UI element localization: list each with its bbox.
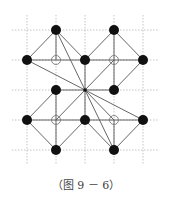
hollow-point (110, 116, 119, 125)
filled-point (109, 85, 119, 95)
hollow-point (52, 116, 61, 125)
filled-point (51, 25, 61, 35)
hollow-point (110, 56, 119, 65)
filled-point (51, 145, 61, 155)
filled-point (109, 25, 119, 35)
center-point (83, 88, 87, 92)
segment (114, 120, 143, 150)
segment (114, 30, 143, 60)
segment (27, 90, 56, 120)
hollow-point (52, 56, 61, 65)
figure-caption: （图 9 － 6） (0, 176, 172, 192)
filled-point (51, 85, 61, 95)
segment (27, 30, 56, 60)
segment (85, 60, 114, 90)
filled-point (80, 115, 90, 125)
segment (85, 120, 114, 150)
filled-point (22, 55, 32, 65)
segment (56, 90, 85, 120)
filled-point (138, 115, 148, 125)
filled-point (109, 145, 119, 155)
segment (27, 120, 56, 150)
segment (56, 30, 85, 60)
filled-point (80, 55, 90, 65)
segment (114, 60, 143, 90)
segment (85, 90, 114, 120)
segment (85, 30, 114, 60)
filled-point (138, 55, 148, 65)
geometry-figure (0, 0, 172, 172)
segment (56, 120, 85, 150)
filled-point (22, 115, 32, 125)
